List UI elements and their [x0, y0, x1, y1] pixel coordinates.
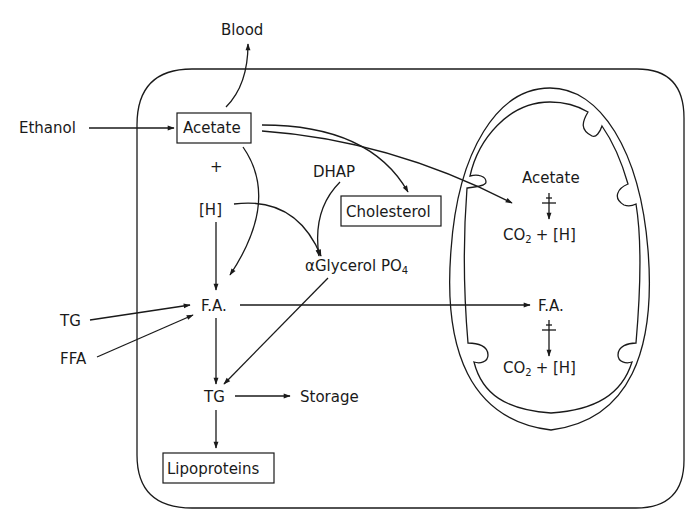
arrow-tg-in-fa — [90, 305, 190, 320]
label-tg-in: TG — [59, 312, 81, 330]
label-h: [H] — [199, 201, 222, 219]
label-storage: Storage — [300, 388, 359, 406]
label-dhap: DHAP — [313, 163, 355, 181]
label-mito-acetate: Acetate — [522, 169, 580, 187]
arrow-acetate-mito-acetate — [262, 131, 512, 203]
arrow-dhap-glycerol — [318, 182, 340, 256]
label-mito-co2-bot: CO2+ [H] — [503, 359, 576, 378]
arrow-ffa-fa — [97, 315, 193, 357]
label-ethanol: Ethanol — [19, 119, 76, 137]
mitochondrion-outer-membrane — [450, 88, 650, 430]
label-fa: F.A. — [201, 297, 227, 315]
label-ffa: FFA — [60, 350, 87, 368]
label-tg: TG — [203, 388, 225, 406]
arrow-acetate-cholesterol — [262, 125, 408, 192]
label-mito-fa: F.A. — [538, 297, 564, 315]
arrow-h-glycerol — [234, 203, 321, 256]
arrow-acetate-blood — [226, 44, 248, 107]
arrow-acetate-fa — [230, 147, 259, 275]
metabolic-diagram: Blood Ethanol Acetate + [H] DHAP Cholest… — [0, 0, 686, 519]
label-lipoproteins: Lipoproteins — [167, 460, 260, 478]
arrow-glycerol-tg — [224, 278, 328, 384]
label-mito-co2-top: CO2+ [H] — [503, 226, 576, 245]
label-blood: Blood — [221, 21, 263, 39]
label-acetate: Acetate — [183, 119, 241, 137]
label-glycerol-po4: αGlycerol PO4 — [305, 257, 408, 276]
label-cholesterol: Cholesterol — [346, 203, 431, 221]
label-plus: + — [210, 158, 223, 176]
